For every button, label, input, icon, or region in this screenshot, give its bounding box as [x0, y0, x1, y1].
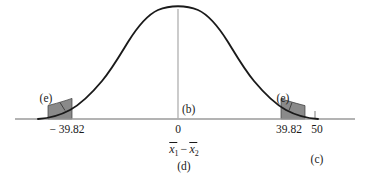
callout-label-e-right: (e) [277, 93, 290, 105]
mean-subscript-second: 2 [195, 149, 199, 158]
sampling-distribution-figure: (e) (e) (b) 0 − 39.82 39.82 50 (c) x1−x2… [0, 0, 365, 191]
overbar-second [189, 142, 197, 143]
mean-subscript-first: 1 [175, 149, 179, 158]
axis-tick-label-zero: 0 [175, 124, 181, 136]
axis-tick-label-left-critical: − 39.82 [49, 124, 84, 136]
statistic-expression: x1−x2 [169, 143, 198, 158]
callout-label-d: (d) [177, 161, 190, 173]
statistic-operator: − [179, 142, 190, 156]
mean-term-first: x1 [169, 143, 178, 158]
axis-tick-label-right-critical: 39.82 [276, 124, 302, 136]
callout-label-c: (c) [311, 154, 324, 166]
callout-label-e-left: (e) [40, 93, 53, 105]
mean-term-second: x2 [189, 143, 198, 158]
overbar-first [169, 142, 177, 143]
axis-tick-label-upper-bound: 50 [311, 124, 323, 136]
callout-label-b: (b) [182, 104, 195, 116]
